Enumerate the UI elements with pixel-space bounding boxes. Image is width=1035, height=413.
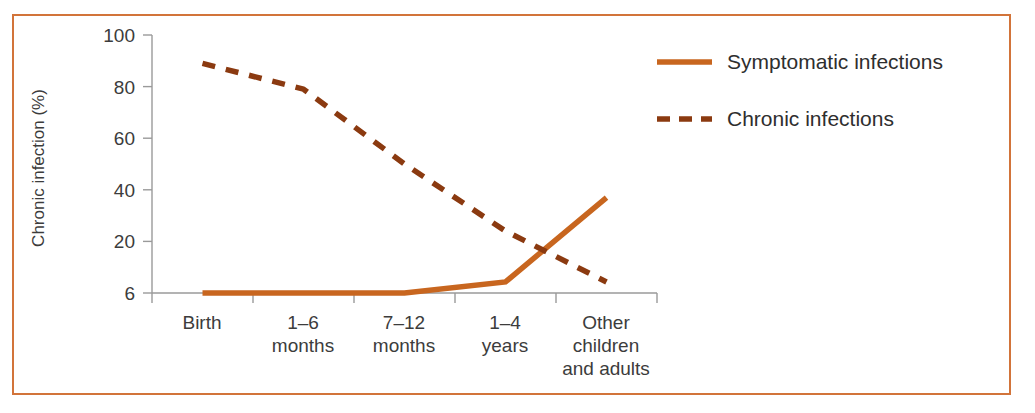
x-tick-label-birth: Birth	[182, 312, 221, 333]
x-tick-label-other-line3: and adults	[562, 358, 650, 379]
legend-label-symptomatic: Symptomatic infections	[727, 50, 943, 73]
legend: Symptomatic infections Chronic infection…	[657, 50, 943, 130]
x-tick-label-1-4-years-unit: years	[482, 335, 528, 356]
figure-root: 100 80 60 40 20 6 Chronic infection (%) …	[0, 0, 1035, 413]
x-tick-label-1-4-years: 1–4	[489, 312, 521, 333]
x-tick-label-other: Other	[582, 312, 630, 333]
x-tick-label-7-12-months: 7–12	[383, 312, 425, 333]
y-tick-label: 60	[114, 128, 135, 149]
y-tick-label: 40	[114, 180, 135, 201]
y-tick-labels: 100 80 60 40 20 6	[103, 25, 135, 304]
y-axis-title: Chronic infection (%)	[29, 89, 48, 247]
y-tick-label: 80	[114, 77, 135, 98]
y-tick-label: 20	[114, 231, 135, 252]
chart-plot-area: 100 80 60 40 20 6 Chronic infection (%) …	[0, 0, 1035, 413]
x-tick-label-other-line2: children	[573, 335, 640, 356]
x-tick-label-7-12-months-unit: months	[373, 335, 435, 356]
y-tick-label: 6	[124, 283, 135, 304]
series-line-symptomatic	[203, 198, 607, 293]
x-tick-label-1-6-months-unit: months	[272, 335, 334, 356]
x-tick-label-1-6-months: 1–6	[287, 312, 319, 333]
y-tick-label: 100	[103, 25, 135, 46]
legend-label-chronic: Chronic infections	[727, 107, 894, 130]
x-tick-labels: Birth 1–6 months 7–12 months 1–4 years O…	[182, 312, 649, 379]
series-line-chronic	[203, 63, 607, 282]
y-tick-marks	[143, 35, 152, 293]
